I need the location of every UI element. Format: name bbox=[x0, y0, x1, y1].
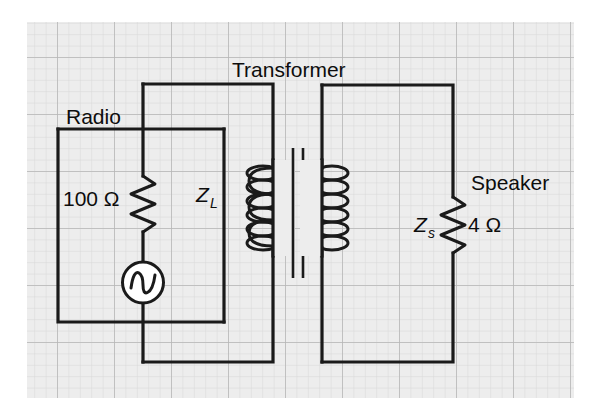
speaker-label: Speaker bbox=[471, 171, 549, 194]
speaker-resistance-label: 4 Ω bbox=[468, 213, 501, 236]
speaker-impedance-symbol: Z bbox=[413, 213, 428, 236]
diagram-canvas: Radio Transformer Speaker 100 Ω Z L Z s … bbox=[0, 0, 602, 419]
speaker-impedance-subscript: s bbox=[428, 225, 435, 241]
circuit-diagram: Radio Transformer Speaker 100 Ω Z L Z s … bbox=[0, 0, 602, 419]
load-impedance-symbol: Z bbox=[195, 183, 210, 206]
source-resistance-label: 100 Ω bbox=[63, 187, 120, 210]
load-impedance-subscript: L bbox=[210, 195, 218, 211]
transformer-label: Transformer bbox=[232, 58, 346, 81]
secondary-coil-mask bbox=[300, 160, 322, 256]
radio-label: Radio bbox=[66, 105, 121, 128]
